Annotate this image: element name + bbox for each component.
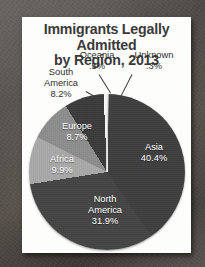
unknown-value: .3% bbox=[146, 61, 162, 71]
asia-name: Asia bbox=[145, 142, 163, 152]
slice-label-north-america: North America 31.9% bbox=[74, 194, 136, 227]
screenshot-root: Immigrants Legally Admitted by Region, 2… bbox=[0, 0, 205, 267]
leader-line-oceania bbox=[99, 74, 112, 93]
pie-chart-plot: South America 8.2% Oceania .5% Unknown .… bbox=[22, 17, 191, 253]
north-america-name-line-2: America bbox=[88, 205, 122, 215]
unknown-name: Unknown bbox=[135, 50, 174, 60]
asia-value: 40.4% bbox=[141, 153, 167, 163]
north-america-name-line-1: North bbox=[94, 194, 117, 204]
slice-label-unknown: Unknown .3% bbox=[123, 50, 185, 72]
slice-label-africa: Africa 9.9% bbox=[36, 154, 88, 176]
chart-card: Immigrants Legally Admitted by Region, 2… bbox=[22, 17, 191, 253]
south-america-name-line-2: America bbox=[44, 78, 78, 88]
africa-name: Africa bbox=[50, 154, 74, 164]
europe-value: 8.7% bbox=[66, 132, 87, 142]
europe-name: Europe bbox=[62, 121, 92, 131]
oceania-value: .5% bbox=[89, 61, 105, 71]
slice-label-asia: Asia 40.4% bbox=[125, 142, 183, 164]
north-america-value: 31.9% bbox=[92, 216, 118, 226]
slice-label-oceania: Oceania .5% bbox=[68, 50, 126, 72]
slice-label-europe: Europe 8.7% bbox=[49, 121, 105, 143]
africa-value: 9.9% bbox=[51, 165, 72, 175]
oceania-name: Oceania bbox=[80, 50, 115, 60]
south-america-value: 8.2% bbox=[50, 89, 71, 99]
leader-line-unknown bbox=[121, 74, 133, 96]
